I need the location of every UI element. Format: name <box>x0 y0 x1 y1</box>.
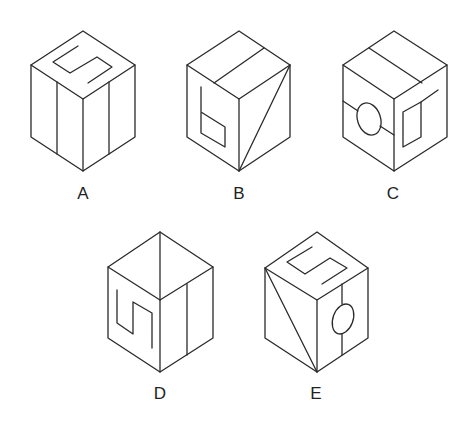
cube-c-top-line <box>369 48 422 83</box>
cube-a <box>31 31 135 171</box>
option-label-c: C <box>387 185 399 202</box>
cube-b-right-diagonal <box>239 65 290 171</box>
cube-figure <box>0 0 473 431</box>
cube-c-rectangle <box>403 102 421 147</box>
cube-c-left-line-a <box>343 101 358 111</box>
cube-b-top-line <box>214 48 264 83</box>
cube-c-left-line-b <box>380 126 394 135</box>
cube-d <box>108 232 213 372</box>
option-label-a: A <box>77 185 88 202</box>
cube-c-circle <box>353 100 385 138</box>
cube-b-inner-edges <box>187 65 290 99</box>
cube-e-circle <box>328 301 357 337</box>
cube-c-right-line <box>421 90 438 102</box>
option-label-e: E <box>310 385 321 402</box>
cube-d-left-s-shape <box>117 290 152 348</box>
cube-b <box>187 31 290 171</box>
cube-e-inner-edges <box>265 268 368 300</box>
cube-c <box>343 31 447 171</box>
option-label-d: D <box>154 385 166 402</box>
cube-a-inner-edges <box>31 65 135 99</box>
option-label-b: B <box>233 185 244 202</box>
cube-a-top-s-shape <box>53 46 112 83</box>
cube-c-outline <box>343 31 447 171</box>
cube-e-top-s-shape <box>287 247 347 284</box>
cube-b-left-b-shape <box>201 87 225 147</box>
cube-e <box>265 232 368 372</box>
